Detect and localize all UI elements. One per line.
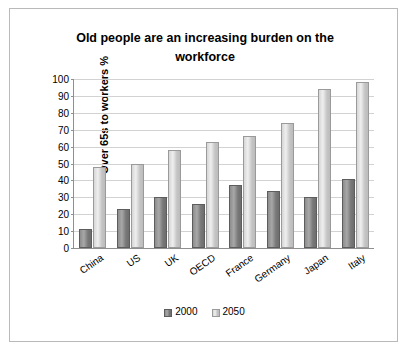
y-axis-tick-mark [71, 79, 74, 80]
chart-container: Old people are an increasing burden on t… [9, 8, 398, 342]
y-axis-tick-label: 20 [39, 209, 69, 220]
bar-2050-germany [281, 123, 294, 248]
chart-title: Old people are an increasing burden on t… [50, 29, 360, 67]
y-axis-tick-label: 0 [39, 243, 69, 254]
y-axis-tick-label: 90 [39, 90, 69, 101]
y-axis-tick-label: 100 [39, 74, 69, 85]
x-axis-label-us: US [100, 252, 142, 286]
y-axis-tick-label: 10 [39, 226, 69, 237]
bar-group [192, 79, 219, 248]
bar-group [154, 79, 181, 248]
bar-2000-uk [154, 197, 167, 248]
y-axis-tick-mark [71, 231, 74, 232]
x-axis-label-uk: UK [138, 252, 180, 286]
bar-2050-france [243, 136, 256, 248]
bar-2000-italy [342, 179, 355, 248]
y-axis-tick-mark [71, 248, 74, 249]
y-axis-tick-mark [71, 164, 74, 165]
bar-group [229, 79, 256, 248]
bar-2050-japan [318, 89, 331, 248]
x-axis-label-germany: Germany [250, 252, 292, 286]
bar-2000-oecd [192, 204, 205, 248]
legend-swatch-2050 [212, 309, 220, 317]
bar-2000-germany [267, 191, 280, 248]
y-axis-tick-label: 70 [39, 124, 69, 135]
bar-2000-france [229, 185, 242, 248]
legend-label-2050: 2050 [223, 306, 245, 317]
x-axis-label-oecd: OECD [175, 252, 217, 286]
y-axis-tick-label: 60 [39, 141, 69, 152]
x-axis-label-italy: Italy [325, 252, 367, 286]
x-axis-label-japan: Japan [288, 252, 330, 286]
bar-group [267, 79, 294, 248]
plot-area: Over 65s to workers % 010203040506070809… [73, 79, 374, 249]
x-axis-label-france: France [213, 252, 255, 286]
y-axis-tick-mark [71, 113, 74, 114]
legend-item-2000: 2000 [164, 306, 197, 318]
bar-2050-uk [168, 150, 181, 248]
bar-2050-italy [356, 82, 369, 248]
bar-2050-us [131, 164, 144, 249]
y-axis-tick-label: 30 [39, 192, 69, 203]
y-axis-tick-mark [71, 214, 74, 215]
chart-legend: 20002050 [10, 306, 399, 318]
y-axis-tick-mark [71, 197, 74, 198]
bar-2050-china [93, 167, 106, 248]
legend-item-2050: 2050 [212, 306, 245, 318]
y-axis-tick-label: 50 [39, 158, 69, 169]
y-axis-tick-mark [71, 96, 74, 97]
bar-group [342, 79, 369, 248]
bar-2000-china [79, 229, 92, 248]
legend-swatch-2000 [164, 309, 172, 317]
x-axis-label-china: China [63, 252, 105, 286]
y-axis-tick-mark [71, 147, 74, 148]
legend-label-2000: 2000 [175, 306, 197, 317]
bar-2050-oecd [206, 142, 219, 248]
y-axis-tick-label: 80 [39, 107, 69, 118]
bar-group [79, 79, 106, 248]
y-axis-tick-mark [71, 130, 74, 131]
bar-2000-us [117, 209, 130, 248]
y-axis-tick-mark [71, 180, 74, 181]
bar-group [304, 79, 331, 248]
bar-2000-japan [304, 197, 317, 248]
y-axis-tick-label: 40 [39, 175, 69, 186]
bar-group [117, 79, 144, 248]
